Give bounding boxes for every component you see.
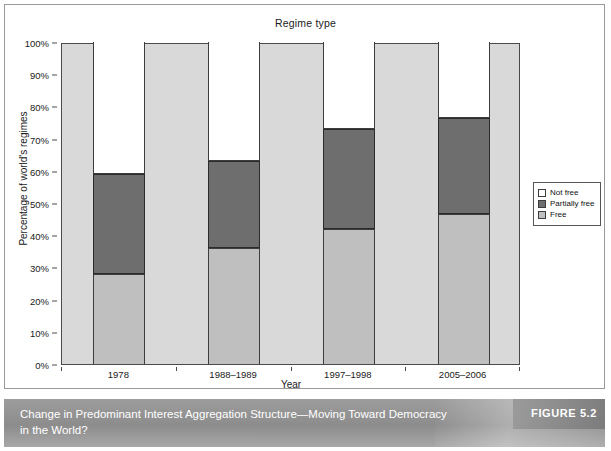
legend-item-label: Not free	[550, 188, 578, 198]
bar-group	[93, 44, 145, 364]
y-tick-mark	[52, 300, 57, 301]
y-tick-label: 60%	[30, 166, 49, 177]
y-tick-label: 100%	[25, 38, 49, 49]
bar-group	[438, 44, 490, 364]
legend-swatch-partially-free	[538, 200, 546, 208]
y-tick-mark	[52, 107, 57, 108]
y-tick-mark	[52, 43, 57, 44]
bar-group	[208, 44, 260, 364]
bar-segment-not-free[interactable]	[323, 42, 375, 129]
bar-segment-not-free[interactable]	[438, 42, 490, 118]
y-tick-mark	[52, 75, 57, 76]
figure-number-label: FIGURE 5.2	[531, 407, 597, 419]
y-tick-mark	[52, 139, 57, 140]
x-tick-mark	[61, 367, 62, 371]
chart-title: Regime type	[5, 17, 606, 29]
y-tick-label: 30%	[30, 263, 49, 274]
y-tick-label: 90%	[30, 70, 49, 81]
bar-segment-not-free[interactable]	[93, 42, 145, 174]
legend-item[interactable]: Not free	[538, 188, 596, 198]
stacked-bar[interactable]	[93, 44, 145, 364]
y-tick-mark	[52, 171, 57, 172]
bar-segment-partially-free[interactable]	[438, 118, 490, 215]
y-axis-tick-labels: 0%10%20%30%40%50%60%70%80%90%100%	[5, 43, 57, 365]
stacked-bar[interactable]	[323, 44, 375, 364]
legend-item[interactable]: Free	[538, 210, 596, 220]
legend-item-label: Free	[550, 210, 566, 220]
bar-segment-partially-free[interactable]	[208, 161, 260, 248]
stacked-bar[interactable]	[208, 44, 260, 364]
y-tick-mark	[52, 236, 57, 237]
legend-item[interactable]: Partially free	[538, 199, 596, 209]
y-tick-mark	[52, 268, 57, 269]
y-tick-label: 40%	[30, 231, 49, 242]
y-tick-label: 70%	[30, 134, 49, 145]
legend-swatch-free	[538, 211, 546, 219]
x-tick-mark	[291, 367, 292, 371]
legend-swatch-not-free	[538, 189, 546, 197]
x-tick-mark	[405, 367, 406, 371]
y-tick-mark	[52, 204, 57, 205]
x-tick-mark	[176, 367, 177, 371]
y-tick-label: 10%	[30, 327, 49, 338]
bar-group	[323, 44, 375, 364]
y-tick-label: 20%	[30, 295, 49, 306]
bar-segment-free[interactable]	[208, 248, 260, 364]
stacked-bar[interactable]	[438, 44, 490, 364]
bar-segment-partially-free[interactable]	[93, 174, 145, 274]
bar-segment-partially-free[interactable]	[323, 129, 375, 229]
chart-legend: Not freePartially freeFree	[533, 182, 601, 226]
bar-segment-not-free[interactable]	[208, 42, 260, 161]
legend-item-label: Partially free	[550, 199, 594, 209]
y-tick-label: 80%	[30, 102, 49, 113]
x-tick-mark	[519, 367, 520, 371]
chart-frame: Regime type Percentage of world's regime…	[4, 4, 605, 389]
y-tick-label: 0%	[35, 360, 49, 371]
y-tick-label: 50%	[30, 199, 49, 210]
bar-segment-free[interactable]	[438, 214, 490, 364]
plot-area	[61, 43, 520, 365]
x-axis-label: Year	[61, 379, 521, 390]
y-tick-mark	[52, 365, 57, 366]
figure-container: Regime type Percentage of world's regime…	[0, 0, 611, 451]
y-tick-mark	[52, 332, 57, 333]
figure-caption-bar: Change in Predominant Interest Aggregati…	[4, 399, 605, 447]
figure-caption-text: Change in Predominant Interest Aggregati…	[20, 406, 450, 438]
bar-segment-free[interactable]	[323, 229, 375, 364]
bar-segment-free[interactable]	[93, 274, 145, 364]
